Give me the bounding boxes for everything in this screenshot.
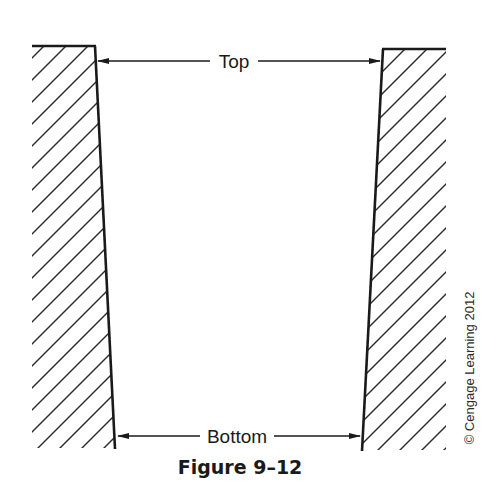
hatch-line <box>0 0 503 222</box>
hatch-line <box>0 0 503 266</box>
figure-caption: Figure 9–12 <box>178 456 303 478</box>
hatch-line <box>0 0 503 442</box>
hatch-line <box>0 171 503 502</box>
hatch-line <box>0 0 503 156</box>
hatch-line <box>0 347 503 502</box>
hatch-line <box>0 0 503 410</box>
top-dimension: Top <box>98 51 380 72</box>
hatch-line <box>0 0 503 486</box>
hatch-line <box>0 0 503 244</box>
copyright-notice: © Cengage Learning 2012 <box>462 292 477 445</box>
hatch-line <box>0 0 503 200</box>
hatch-line <box>0 0 503 112</box>
hatch-line <box>0 0 503 178</box>
hatch-line <box>0 0 503 398</box>
hatch-line <box>0 0 503 288</box>
hatch-line <box>0 0 503 376</box>
tapered-cavity-diagram: Top Bottom Figure 9–12 © Cengage Learnin… <box>0 0 503 502</box>
top-dimension-label: Top <box>219 51 250 72</box>
bottom-dimension-label: Bottom <box>207 426 267 447</box>
bottom-dimension: Bottom <box>118 426 360 447</box>
hatch-line <box>0 0 503 454</box>
